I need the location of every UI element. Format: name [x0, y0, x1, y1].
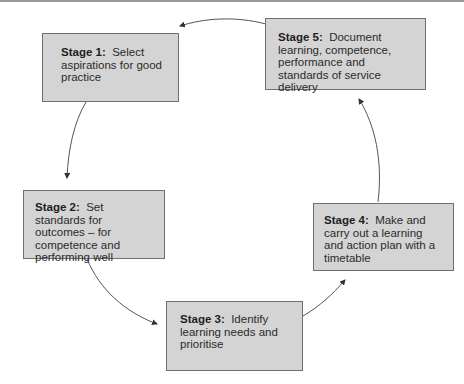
arrow-stage4-to-stage5	[359, 99, 379, 202]
arrow-stage5-to-stage1	[180, 19, 266, 26]
stage-2-box: Stage 2: Set standards for outcomes – fo…	[23, 190, 165, 259]
stage-4-box: Stage 4: Make and carry out a learning a…	[313, 203, 454, 271]
stage-2-label: Stage 2:	[35, 201, 80, 213]
stage-1-box: Stage 1: Select aspirations for good pra…	[42, 33, 179, 102]
stage-5-label: Stage 5:	[278, 31, 323, 43]
stage-3-label: Stage 3:	[180, 313, 225, 325]
stage-1-label: Stage 1:	[61, 46, 106, 58]
arrow-stage2-to-stage3	[87, 259, 157, 324]
stage-4-label: Stage 4:	[324, 214, 369, 226]
stage-3-box: Stage 3: Identify learning needs and pri…	[166, 301, 303, 371]
arrow-stage1-to-stage2	[67, 102, 86, 178]
arrow-stage3-to-stage4	[303, 280, 345, 316]
stage-5-box: Stage 5: Document learning, competence, …	[265, 18, 426, 90]
